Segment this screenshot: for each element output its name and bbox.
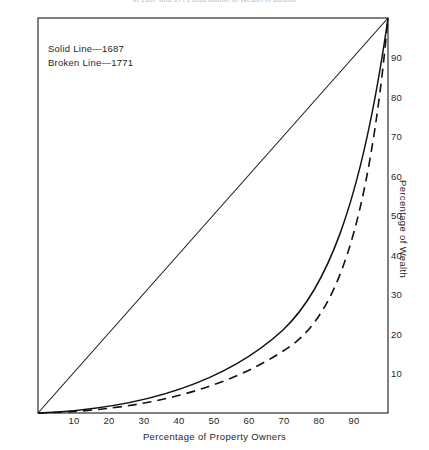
x-tick-30: 30 <box>132 415 156 426</box>
y-tick-30: 30 <box>391 289 415 300</box>
legend-entry-broken: Broken Line—1771 <box>48 56 133 70</box>
y-tick-70: 70 <box>391 131 415 142</box>
x-tick-70: 70 <box>272 415 296 426</box>
x-tick-10: 10 <box>62 415 86 426</box>
y-tick-90: 90 <box>391 52 415 63</box>
figure: in 1687 and 1771 Distribution of Wealth … <box>0 0 429 450</box>
x-tick-20: 20 <box>97 415 121 426</box>
x-tick-90: 90 <box>342 415 366 426</box>
legend-entry-solid: Solid Line—1687 <box>48 42 133 56</box>
y-axis-label: Percentage of Wealth <box>398 180 409 278</box>
y-tick-80: 80 <box>391 92 415 103</box>
legend: Solid Line—1687 Broken Line—1771 <box>48 42 133 69</box>
x-axis-label: Percentage of Property Owners <box>0 431 429 442</box>
x-tick-60: 60 <box>237 415 261 426</box>
y-tick-20: 20 <box>391 329 415 340</box>
x-tick-80: 80 <box>307 415 331 426</box>
x-tick-50: 50 <box>202 415 226 426</box>
x-tick-40: 40 <box>167 415 191 426</box>
y-tick-10: 10 <box>391 368 415 379</box>
